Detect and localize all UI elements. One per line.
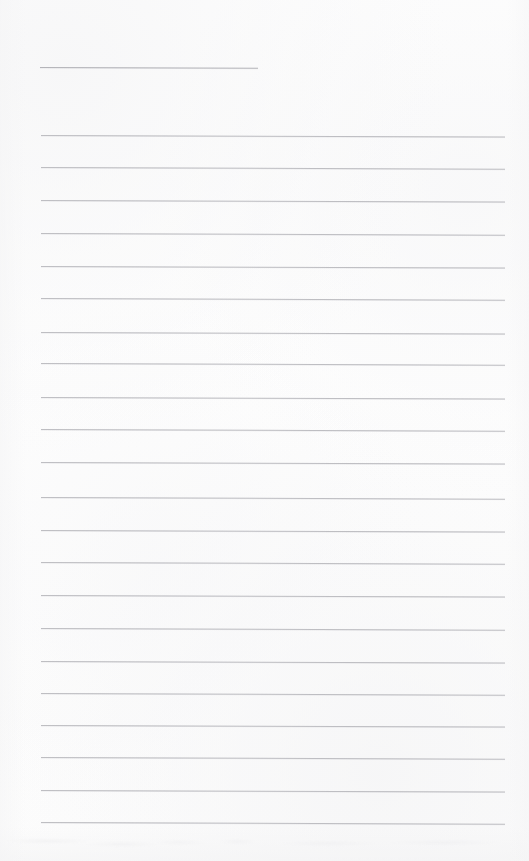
writing-line — [41, 167, 505, 170]
writing-line — [41, 790, 505, 793]
writing-line — [41, 757, 505, 760]
writing-line — [41, 562, 505, 565]
scanned-page — [0, 0, 529, 861]
writing-line — [41, 266, 505, 269]
writing-line — [41, 363, 505, 366]
writing-line — [41, 628, 505, 631]
writing-line — [41, 693, 505, 696]
header-underline-rule — [40, 67, 258, 69]
writing-line — [41, 595, 505, 598]
writing-line — [41, 530, 505, 533]
bleed-through-smudge — [0, 817, 529, 861]
writing-line — [41, 135, 505, 138]
writing-line — [41, 429, 505, 432]
writing-line — [41, 332, 505, 335]
writing-line — [41, 298, 505, 301]
writing-line — [41, 822, 505, 825]
scan-edge-shading — [0, 0, 529, 861]
writing-line — [41, 661, 505, 664]
writing-line — [41, 200, 505, 203]
writing-line — [41, 462, 505, 465]
writing-line — [41, 497, 505, 500]
writing-line — [41, 233, 505, 236]
writing-line — [41, 725, 505, 728]
writing-line — [41, 397, 505, 400]
